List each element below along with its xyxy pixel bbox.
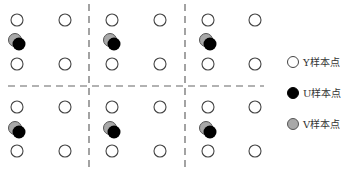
u-sample-dot xyxy=(13,126,26,139)
u-sample-dot xyxy=(204,126,217,139)
y-sample-circle xyxy=(59,145,71,157)
y-sample-circle xyxy=(106,145,118,157)
u-sample-dot xyxy=(13,38,26,51)
legend-label-y: Y样本点 xyxy=(303,54,340,69)
legend-label-v: V样本点 xyxy=(303,116,340,131)
legend: Y样本点 U样本点 V样本点 xyxy=(287,46,341,139)
y-sample-circle xyxy=(154,14,166,26)
y-sample-circle xyxy=(249,101,261,113)
y-sample-circle xyxy=(11,145,23,157)
sample-grid-diagram xyxy=(0,0,280,179)
y-sample-circle xyxy=(249,145,261,157)
y-sample-circle-icon xyxy=(287,56,299,68)
legend-item-u: U样本点 xyxy=(287,77,341,108)
y-sample-circle xyxy=(154,101,166,113)
y-sample-circle xyxy=(202,14,214,26)
u-sample-dot xyxy=(204,38,217,51)
u-sample-dot-icon xyxy=(287,87,299,99)
y-sample-circle xyxy=(154,58,166,70)
block-dividers xyxy=(8,4,264,172)
y-sample-circle xyxy=(249,14,261,26)
y-sample-circle xyxy=(11,58,23,70)
legend-item-v: V样本点 xyxy=(287,108,341,139)
legend-item-y: Y样本点 xyxy=(287,46,341,77)
y-sample-circle xyxy=(106,101,118,113)
y-sample-circle xyxy=(249,58,261,70)
y-sample-circle xyxy=(59,58,71,70)
y-sample-circle xyxy=(11,14,23,26)
u-sample-dot xyxy=(108,38,121,51)
u-sample-dot xyxy=(108,126,121,139)
y-sample-circle xyxy=(202,145,214,157)
chroma-samples xyxy=(9,34,217,139)
y-sample-circle xyxy=(106,14,118,26)
y-sample-circle xyxy=(59,101,71,113)
y-sample-circle xyxy=(202,58,214,70)
v-sample-dot-icon xyxy=(287,118,299,130)
y-sample-circle xyxy=(59,14,71,26)
y-sample-circle xyxy=(154,145,166,157)
y-sample-circle xyxy=(11,101,23,113)
legend-label-u: U样本点 xyxy=(303,85,341,100)
y-sample-circle xyxy=(202,101,214,113)
y-sample-circle xyxy=(106,58,118,70)
